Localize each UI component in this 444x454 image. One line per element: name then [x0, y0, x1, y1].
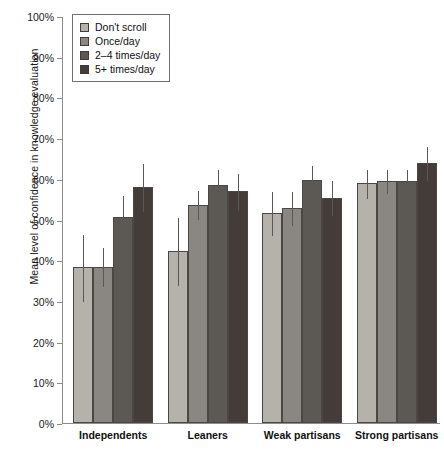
y-tick-label: 50% [33, 215, 54, 227]
bar [262, 213, 282, 423]
error-bar [312, 166, 313, 196]
legend-item-label: 5+ times/day [95, 63, 155, 75]
error-bar [178, 218, 179, 286]
y-tick-label: 60% [33, 174, 54, 186]
y-tick-label: 100% [27, 11, 54, 23]
x-axis-group-label: Weak partisans [264, 429, 341, 441]
bar-group: Leaners [168, 17, 248, 423]
error-bar [427, 147, 428, 181]
bar [228, 191, 248, 423]
legend-item: 5+ times/day [80, 62, 160, 76]
y-axis-line [62, 17, 63, 424]
error-bar [238, 174, 239, 211]
bar [113, 217, 133, 423]
bar [322, 198, 342, 423]
legend-item-label: Don't scroll [95, 21, 147, 33]
error-bar [292, 192, 293, 226]
error-bar [407, 170, 408, 194]
bar [208, 185, 228, 423]
y-tick [57, 98, 62, 99]
y-tick-label: 70% [33, 133, 54, 145]
legend-swatch-icon [80, 23, 89, 32]
y-tick [57, 343, 62, 344]
legend-item: Don't scroll [80, 20, 160, 34]
bar [133, 187, 153, 423]
y-tick-label: 20% [33, 337, 54, 349]
legend-item-label: 2–4 times/day [95, 49, 160, 61]
error-bar [198, 191, 199, 221]
bar [93, 267, 113, 423]
y-tick [57, 221, 62, 222]
legend-swatch-icon [80, 37, 89, 46]
chart-legend: Don't scrollOnce/day2–4 times/day5+ time… [72, 14, 170, 82]
y-tick [57, 17, 62, 18]
error-bar [367, 170, 368, 199]
error-bar [103, 248, 104, 287]
bar [397, 181, 417, 423]
y-tick [57, 58, 62, 59]
bar [282, 208, 302, 423]
legend-item: Once/day [80, 34, 160, 48]
x-axis-group-label: Independents [79, 429, 147, 441]
error-bar [83, 235, 84, 302]
error-bar [332, 181, 333, 216]
y-axis-label: Mean level of confidence in knowledge ev… [28, 47, 41, 287]
error-bar [387, 170, 388, 194]
legend-item-label: Once/day [95, 35, 140, 47]
y-tick-label: 90% [33, 52, 54, 64]
bar [417, 163, 437, 423]
bar [302, 180, 322, 423]
y-tick [57, 302, 62, 303]
bar-chart: Mean level of confidence in knowledge ev… [0, 0, 444, 454]
x-axis-group-label: Leaners [188, 429, 228, 441]
y-tick-label: 40% [33, 255, 54, 267]
y-tick [57, 139, 62, 140]
bar-group: Weak partisans [262, 17, 342, 423]
bar [377, 181, 397, 423]
y-tick-label: 0% [39, 418, 54, 430]
legend-swatch-icon [80, 65, 89, 74]
y-tick [57, 383, 62, 384]
legend-item: 2–4 times/day [80, 48, 160, 62]
y-tick-label: 80% [33, 92, 54, 104]
x-axis-line [62, 423, 440, 424]
y-tick [57, 424, 62, 425]
bar [357, 183, 377, 423]
error-bar [143, 164, 144, 211]
x-axis-group-label: Strong partisans [355, 429, 438, 441]
y-tick [57, 180, 62, 181]
bar [188, 205, 208, 423]
y-tick [57, 261, 62, 262]
legend-swatch-icon [80, 51, 89, 60]
bar-group: Strong partisans [357, 17, 437, 423]
error-bar [218, 170, 219, 203]
y-tick-label: 10% [33, 377, 54, 389]
error-bar [123, 196, 124, 240]
error-bar [272, 192, 273, 236]
y-tick-label: 30% [33, 296, 54, 308]
